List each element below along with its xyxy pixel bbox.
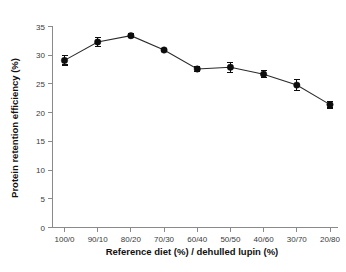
x-axis-title: Reference diet (%) / dehulled lupin (%) (106, 246, 279, 257)
data-point-marker (161, 47, 167, 53)
data-point-marker (128, 32, 134, 38)
y-tick-label: 0 (41, 224, 46, 233)
x-tick-label: 30/70 (287, 235, 308, 244)
y-tick-label: 10 (36, 166, 45, 175)
x-tick-label: 50/50 (220, 235, 241, 244)
data-point-marker (61, 57, 67, 63)
x-axis-ticks: 100/090/1080/2070/3060/4050/5040/6030/70… (54, 228, 340, 245)
y-tick-label: 15 (36, 137, 45, 146)
data-series-layer (61, 32, 333, 108)
y-tick-label: 25 (36, 80, 45, 89)
x-tick-label: 70/30 (154, 235, 175, 244)
data-point-marker (260, 71, 266, 77)
data-point-marker (294, 82, 300, 88)
y-axis-ticks: 05101520253035 (36, 23, 52, 233)
data-point-marker (94, 39, 100, 45)
x-tick-label: 80/20 (121, 235, 142, 244)
data-point-marker (194, 66, 200, 72)
line-chart-plot: Protein retention efficiency (%) Referen… (0, 0, 346, 272)
y-tick-label: 20 (36, 109, 45, 118)
x-tick-label: 20/80 (320, 235, 341, 244)
chart-figure: Protein retention efficiency (%) Referen… (0, 0, 346, 272)
y-axis-title: Protein retention efficiency (%) (9, 58, 20, 198)
y-tick-label: 30 (36, 51, 45, 60)
x-tick-label: 90/10 (88, 235, 109, 244)
x-tick-label: 60/40 (187, 235, 208, 244)
data-point-marker (227, 64, 233, 70)
data-point-marker (327, 101, 333, 107)
x-tick-label: 100/0 (54, 235, 75, 244)
y-tick-label: 5 (41, 195, 46, 204)
x-tick-label: 40/60 (254, 235, 275, 244)
y-tick-label: 35 (36, 23, 45, 32)
